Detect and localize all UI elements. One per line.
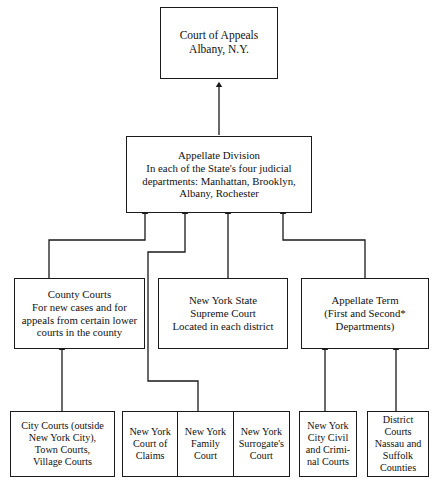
court-system-diagram: Court of Appeals Albany, N.Y. Appellate … xyxy=(0,0,438,484)
node-group-trial-courts: New York Court of Claims New York Family… xyxy=(122,411,290,477)
arrow-appellate-term-to-appellate-division xyxy=(283,213,365,278)
node-district-courts: District Courts Nassau and Suffolk Count… xyxy=(367,411,429,477)
node-court-of-claims: New York Court of Claims xyxy=(123,412,178,476)
arrow-county-courts-to-appellate-division xyxy=(49,213,145,278)
node-surrogates-court: New York Surrogate's Court xyxy=(234,412,289,476)
node-family-court: New York Family Court xyxy=(178,412,233,476)
node-court-of-appeals: Court of Appeals Albany, N.Y. xyxy=(160,7,278,79)
node-appellate-division: Appellate Division In each of the State'… xyxy=(126,136,312,213)
node-city-town-village-courts: City Courts (outside New York City), Tow… xyxy=(10,411,115,477)
node-county-courts: County Courts For new cases and for appe… xyxy=(14,278,145,349)
node-nyc-civil-criminal-courts: New York City Civil and Crimi- nal Court… xyxy=(299,411,357,477)
node-appellate-term: Appellate Term (First and Second* Depart… xyxy=(301,278,429,349)
node-supreme-court: New York State Supreme Court Located in … xyxy=(158,278,288,349)
